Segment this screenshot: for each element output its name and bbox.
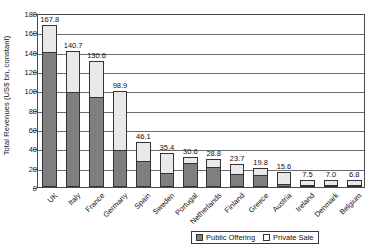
bar-value-label: 7.0 xyxy=(326,170,336,179)
bar-group[interactable]: 130.6 xyxy=(89,61,104,187)
bar-value-label: 23.7 xyxy=(230,154,245,163)
x-axis-labels: UKItalyFranceGermanySpainSwedenPortugalN… xyxy=(37,189,365,234)
gridline xyxy=(38,92,364,93)
bar-segment-public-offering[interactable] xyxy=(300,185,315,187)
bar-segment-private-sale[interactable] xyxy=(113,91,128,150)
x-tick-label: Belgium xyxy=(338,191,364,217)
bar-group[interactable]: 46.1 xyxy=(136,142,151,187)
gridline xyxy=(38,131,364,132)
bar-segment-public-offering[interactable] xyxy=(66,92,81,187)
bar-segment-public-offering[interactable] xyxy=(136,161,151,187)
gridline xyxy=(38,170,364,171)
plot-area: 167.8140.7130.698.946.135.430.628.823.71… xyxy=(37,14,365,188)
bar-segment-public-offering[interactable] xyxy=(324,185,339,187)
bar-segment-private-sale[interactable] xyxy=(206,159,221,167)
bar-value-label: 7.5 xyxy=(302,170,312,179)
gridline xyxy=(38,34,364,35)
bar-value-label: 46.1 xyxy=(136,132,151,141)
x-tick-label: Spain xyxy=(133,191,153,211)
bar-value-label: 167.8 xyxy=(40,15,59,24)
bar-group[interactable]: 140.7 xyxy=(66,51,81,187)
bar-value-label: 130.6 xyxy=(87,51,106,60)
legend-swatch-public xyxy=(196,234,203,241)
bar-group[interactable]: 23.7 xyxy=(230,164,245,187)
bar-value-label: 35.4 xyxy=(160,143,175,152)
gridline xyxy=(38,73,364,74)
chart-legend: Public OfferingPrivate Sale xyxy=(191,231,319,244)
bar-segment-public-offering[interactable] xyxy=(42,52,57,187)
bar-segment-public-offering[interactable] xyxy=(277,184,292,187)
legend-item[interactable]: Public Offering xyxy=(196,233,255,242)
bar-segment-private-sale[interactable] xyxy=(136,142,151,160)
bar-value-label: 30.6 xyxy=(183,147,198,156)
bar-segment-public-offering[interactable] xyxy=(347,185,362,187)
legend-label: Private Sale xyxy=(273,233,313,242)
chart-container: Total Revenues (US$ bn, constant) 020406… xyxy=(0,0,377,252)
bar-segment-private-sale[interactable] xyxy=(253,168,268,175)
bar-group[interactable]: 167.8 xyxy=(42,25,57,187)
bar-group[interactable]: 15.6 xyxy=(277,172,292,187)
bar-group[interactable]: 28.8 xyxy=(206,159,221,187)
bar-segment-private-sale[interactable] xyxy=(277,172,292,184)
bar-segment-private-sale[interactable] xyxy=(160,153,175,173)
x-tick-label: Austria xyxy=(270,191,293,214)
bar-group[interactable]: 19.8 xyxy=(253,168,268,187)
x-tick-label: UK xyxy=(45,191,59,205)
bar-segment-public-offering[interactable] xyxy=(113,150,128,187)
bar-segment-private-sale[interactable] xyxy=(230,164,245,174)
bar-value-label: 140.7 xyxy=(64,41,83,50)
gridline xyxy=(38,112,364,113)
bar-segment-private-sale[interactable] xyxy=(66,51,81,92)
legend-label: Public Offering xyxy=(206,233,255,242)
bar-value-label: 15.6 xyxy=(277,162,292,171)
bar-segment-public-offering[interactable] xyxy=(160,173,175,187)
x-tick-label: Sweden xyxy=(151,191,177,217)
bar-group[interactable]: 98.9 xyxy=(113,91,128,187)
bar-group[interactable]: 7.5 xyxy=(300,180,315,187)
bar-segment-private-sale[interactable] xyxy=(42,25,57,52)
bar-segment-public-offering[interactable] xyxy=(230,174,245,187)
x-tick-label: Italy xyxy=(66,191,82,207)
x-tick-label: Finland xyxy=(223,191,247,215)
legend-item[interactable]: Private Sale xyxy=(263,233,313,242)
x-tick-label: Greece xyxy=(246,191,270,215)
bar-segment-private-sale[interactable] xyxy=(89,61,104,97)
bar-segment-public-offering[interactable] xyxy=(183,163,198,187)
x-tick-label: Germany xyxy=(101,191,129,219)
bar-group[interactable]: 7.0 xyxy=(324,180,339,187)
bar-segment-public-offering[interactable] xyxy=(206,167,221,187)
gridline xyxy=(38,150,364,151)
bar-value-label: 19.8 xyxy=(253,158,268,167)
bar-group[interactable]: 35.4 xyxy=(160,153,175,187)
legend-swatch-private xyxy=(263,234,270,241)
bar-value-label: 6.8 xyxy=(349,170,359,179)
bar-segment-public-offering[interactable] xyxy=(89,97,104,187)
bar-group[interactable]: 6.8 xyxy=(347,180,362,187)
bar-segment-public-offering[interactable] xyxy=(253,175,268,187)
bar-value-label: 28.8 xyxy=(206,149,221,158)
x-tick-label: Denmark xyxy=(312,191,340,219)
bar-group[interactable]: 30.6 xyxy=(183,157,198,187)
bar-value-label: 98.9 xyxy=(113,81,128,90)
